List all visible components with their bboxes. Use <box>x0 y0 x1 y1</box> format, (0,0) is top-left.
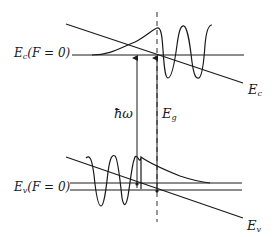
ev-zero-field-main: E <box>14 180 23 194</box>
conduction-band-edge-tilted <box>66 24 243 83</box>
ec-tilted-main: E <box>248 82 258 97</box>
ev-tilted-sub: v <box>257 225 262 234</box>
ev-zero-field-rest: (F = 0) <box>27 180 70 194</box>
band-gap-main: E <box>162 106 172 121</box>
ev-tilted-label: Ev <box>247 219 261 234</box>
intersection-marker <box>135 182 138 185</box>
ev-tilted-main: E <box>247 218 257 233</box>
intersection-marker <box>155 189 158 192</box>
ec-zero-field-label: Ec(F = 0) <box>14 47 70 61</box>
photon-energy-text: ħω <box>114 106 133 121</box>
band-diagram <box>0 0 278 237</box>
band-gap-label: Eg <box>162 107 177 122</box>
valence-wavefunction <box>86 156 210 206</box>
conduction-wavefunction <box>92 25 212 78</box>
photon-energy-label: ħω <box>114 107 133 120</box>
ec-zero-field-rest: (F = 0) <box>27 46 70 60</box>
ec-zero-field-main: E <box>14 46 23 60</box>
ec-tilted-label: Ec <box>248 83 262 98</box>
ev-zero-field-label: Ev(F = 0) <box>14 181 70 195</box>
ec-tilted-sub: c <box>258 89 262 98</box>
band-gap-sub: g <box>172 113 177 122</box>
